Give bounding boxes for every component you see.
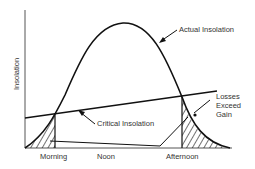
losses-label-line2: Exceed [216, 102, 241, 110]
y-axis-label: Insolation [12, 58, 21, 90]
actual-insolation-label: Actual Insolation [179, 26, 234, 34]
critical-insolation-label: Critical Insolation [97, 120, 154, 128]
x-label-morning: Morning [40, 153, 67, 161]
losses-label-line3: Gain [216, 111, 232, 119]
actual-insolation-curve [25, 23, 230, 148]
x-label-noon: Noon [97, 153, 115, 161]
losses-leader-dot [193, 113, 196, 116]
morning-losses-region [25, 114, 55, 148]
losses-leader-line-upper [194, 100, 210, 113]
x-label-afternoon: Afternoon [166, 153, 199, 161]
insolation-diagram: Insolation Actual Insolation Critical In… [0, 0, 255, 169]
losses-label-line1: Losses [216, 93, 240, 101]
